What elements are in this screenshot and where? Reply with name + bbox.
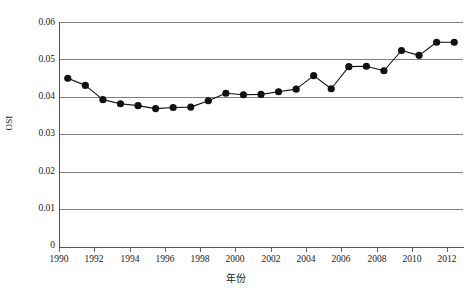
data-point-1994 [134,102,141,109]
data-point-2005 [328,85,335,92]
data-point-1996 [170,104,177,111]
data-point-2002 [275,88,282,95]
data-point-1993 [117,100,124,107]
osi-year-line-chart: OSI 0.06 0.05 0.04 0.03 0.02 0.01 0 1990… [0,0,471,294]
data-point-1999 [222,90,229,97]
x-axis-title: 年份 [0,270,471,285]
data-point-2009 [398,47,405,54]
data-point-2006 [345,63,352,70]
data-point-2001 [257,91,264,98]
series-markers-osi [64,39,458,113]
data-point-1990 [64,75,71,82]
data-point-2011 [433,39,440,46]
data-series-layer [0,0,471,294]
data-point-2008 [380,67,387,74]
data-point-1995 [152,105,159,112]
data-point-2012 [451,39,458,46]
data-point-1991 [82,82,89,89]
data-point-1997 [187,104,194,111]
data-point-2010 [415,52,422,59]
data-point-2003 [293,86,300,93]
data-point-2007 [363,63,370,70]
series-line-osi [68,42,454,108]
data-point-1992 [99,96,106,103]
data-point-1998 [205,97,212,104]
data-point-2000 [240,91,247,98]
data-point-2004 [310,72,317,79]
